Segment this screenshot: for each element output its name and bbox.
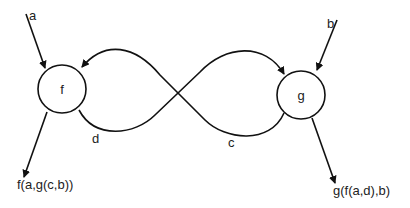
wire-label-c: c <box>228 135 235 150</box>
diagram-svg: f g a b d c f(a,g(c,b)) g(f(a,d),b) <box>0 0 410 208</box>
diagram-canvas: f g a b d c f(a,g(c,b)) g(f(a,d),b) <box>0 0 410 208</box>
feedback-wire-d <box>79 51 284 131</box>
feedback-wire-c <box>82 49 284 136</box>
wire-label-d: d <box>92 131 99 146</box>
input-label-b: b <box>327 16 334 31</box>
output-wire-g <box>312 118 335 183</box>
output-label-g: g(f(a,d),b) <box>333 183 390 198</box>
output-wire-f <box>24 112 47 177</box>
output-label-f: f(a,g(c,b)) <box>17 177 73 192</box>
node-g-label: g <box>297 88 304 103</box>
input-label-a: a <box>29 8 37 23</box>
node-f-label: f <box>60 82 64 97</box>
